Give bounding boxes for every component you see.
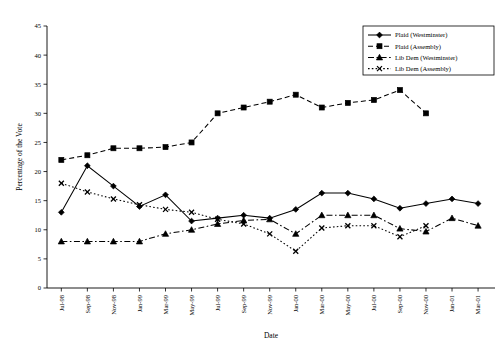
x-tick-label: Sep-99 [240, 295, 247, 313]
data-point-marker [319, 226, 324, 231]
data-point-marker [163, 145, 168, 150]
y-tick-label: 20 [35, 168, 42, 175]
y-tick-label: 40 [35, 52, 42, 59]
data-point-marker [423, 228, 429, 234]
y-tick-label: 35 [35, 81, 42, 88]
x-tick-label: Nov-99 [266, 295, 273, 315]
data-point-marker [319, 105, 324, 110]
y-axis-title: Percentage of the Vote [15, 123, 24, 191]
data-point-marker [345, 190, 351, 196]
data-point-marker [188, 227, 194, 233]
data-point-marker [111, 146, 116, 151]
x-tick-label: Jul-00 [370, 295, 377, 311]
data-point-marker [293, 207, 299, 213]
x-tick-label: Sep-00 [396, 295, 403, 313]
data-point-marker [267, 99, 272, 104]
data-point-marker [189, 210, 194, 215]
legend-label: Plaid (Assembly) [395, 43, 441, 51]
y-tick-label: 0 [38, 284, 41, 291]
series-line [61, 166, 478, 221]
data-point-marker [423, 111, 428, 116]
y-tick-label: 15 [35, 197, 42, 204]
data-point-marker [371, 196, 377, 202]
x-tick-label: Nov-00 [422, 295, 429, 315]
line-chart: 051015202530354045Jul-98Sep-98Nov-98Jan-… [0, 0, 504, 346]
data-point-marker [377, 44, 382, 49]
data-point-marker [475, 201, 481, 207]
data-point-marker [423, 201, 429, 207]
legend-label: Plaid (Westminster) [395, 31, 447, 39]
x-tick-label: Jul-99 [214, 295, 221, 311]
series-3 [58, 212, 481, 244]
x-tick-label: Nov-98 [110, 295, 117, 315]
data-point-marker [111, 196, 116, 201]
y-tick-label: 30 [35, 110, 42, 117]
data-point-marker [449, 215, 455, 221]
x-tick-label: Jan-00 [292, 295, 299, 312]
data-point-marker [137, 146, 142, 151]
data-point-marker [241, 105, 246, 110]
series-1 [58, 163, 481, 224]
x-tick-label: May-99 [188, 295, 195, 316]
data-point-marker [215, 111, 220, 116]
x-tick-label: Sep-98 [84, 295, 91, 313]
x-tick-label: Mar-01 [474, 295, 481, 314]
y-tick-label: 45 [35, 22, 42, 29]
data-point-marker [345, 212, 351, 218]
x-tick-label: Jan-99 [136, 295, 143, 312]
data-point-marker [58, 209, 64, 215]
data-point-marker [293, 92, 298, 97]
x-axis-title: Date [264, 331, 279, 340]
data-point-marker [163, 207, 168, 212]
legend-label: Lib Dem (Assembly) [395, 65, 451, 73]
data-point-marker [162, 231, 168, 237]
chart-container: 051015202530354045Jul-98Sep-98Nov-98Jan-… [0, 0, 504, 346]
series-2 [59, 88, 429, 163]
data-point-marker [319, 212, 325, 218]
data-point-marker [293, 249, 298, 254]
data-point-marker [189, 140, 194, 145]
legend-label: Lib Dem (Westminster) [395, 54, 457, 62]
data-point-marker [371, 97, 376, 102]
data-point-marker [319, 190, 325, 196]
data-point-marker [85, 189, 90, 194]
x-tick-label: Mar-99 [162, 295, 169, 314]
data-point-marker [397, 205, 403, 211]
data-point-marker [59, 157, 64, 162]
data-point-marker [397, 88, 402, 93]
data-point-marker [371, 212, 377, 218]
x-tick-label: Jul-98 [58, 295, 65, 311]
data-point-marker [267, 231, 272, 236]
data-point-marker [345, 100, 350, 105]
data-point-marker [293, 231, 299, 237]
y-tick-label: 5 [38, 255, 41, 262]
data-point-marker [59, 181, 64, 186]
x-tick-label: May-00 [344, 295, 351, 316]
data-point-marker [449, 196, 455, 202]
data-point-marker [397, 226, 403, 232]
data-point-marker [397, 234, 402, 239]
y-tick-label: 25 [35, 139, 42, 146]
x-tick-label: Jan-01 [448, 295, 455, 312]
x-tick-label: Mar-00 [318, 295, 325, 314]
y-tick-label: 10 [35, 226, 42, 233]
data-point-marker [85, 153, 90, 158]
legend: Plaid (Westminster)Plaid (Assembly)Lib D… [363, 26, 494, 75]
data-point-marker [423, 223, 428, 228]
